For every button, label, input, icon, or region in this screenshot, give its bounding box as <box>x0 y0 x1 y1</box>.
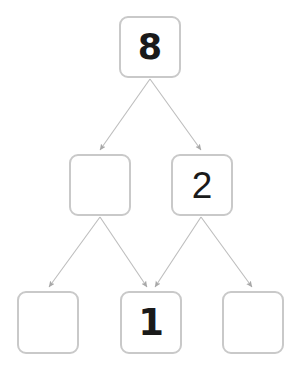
tree-node-leaf-right[interactable] <box>222 291 284 354</box>
edge-mid-right-to-leaf-right <box>201 217 252 287</box>
edge-root-to-mid-left <box>100 79 150 150</box>
tree-node-mid-right[interactable]: 2 <box>171 154 233 216</box>
tree-node-leaf-center-label: 1 <box>138 304 164 341</box>
tree-node-mid-left[interactable] <box>69 154 131 216</box>
tree-node-leaf-center[interactable]: 1 <box>120 291 182 354</box>
edge-mid-left-to-leaf-left <box>49 217 100 287</box>
tree-node-leaf-left[interactable] <box>17 291 79 354</box>
edge-mid-right-to-leaf-center <box>155 217 201 287</box>
tree-node-root-label: 8 <box>138 30 162 65</box>
edge-mid-left-to-leaf-center <box>100 217 147 287</box>
tree-node-root[interactable]: 8 <box>119 16 181 78</box>
tree-diagram-canvas: 8 2 1 <box>0 0 302 383</box>
tree-node-mid-right-label: 2 <box>192 167 213 204</box>
edge-root-to-mid-right <box>150 79 201 150</box>
